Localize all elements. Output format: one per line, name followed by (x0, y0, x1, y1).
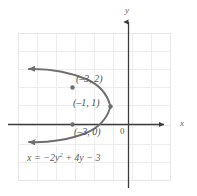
y-axis-label: y (125, 6, 129, 15)
point-label-neg1-1: (–1, 1) (73, 98, 100, 108)
point-marker-neg1-1 (108, 104, 112, 108)
x-axis-label: x (180, 119, 184, 128)
graph-figure: y x 0 (–3, 2) (–1, 1) (–3, 0) x = −2y2 +… (0, 0, 197, 196)
equation-head: x = −2y (27, 152, 59, 163)
equation-label: x = −2y2 + 4y − 3 (27, 153, 101, 163)
equation-tail: + 4y − 3 (63, 152, 101, 163)
point-label-neg3-0: (–3, 0) (74, 127, 101, 137)
origin-label: 0 (120, 127, 125, 136)
point-marker-neg3-2 (70, 85, 74, 89)
point-label-neg3-2: (–3, 2) (76, 74, 103, 84)
